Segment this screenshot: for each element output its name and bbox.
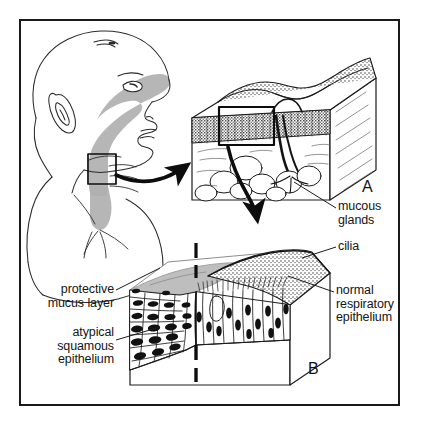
panel-letter-b: B bbox=[308, 360, 319, 378]
panel-a-tissue-block bbox=[192, 58, 376, 201]
arrow-head-to-panel-a bbox=[116, 166, 186, 181]
trachea-shading bbox=[90, 186, 112, 230]
eye-outline bbox=[123, 81, 142, 92]
label-atypical-squamous-epithelium: atypical squamous epithelium bbox=[0, 326, 114, 367]
airway-shading bbox=[89, 74, 170, 196]
label-normal-respiratory-epithelium: normal respiratory epithelium bbox=[336, 284, 394, 325]
lower-lip bbox=[140, 137, 154, 139]
nostril bbox=[146, 117, 153, 119]
shoulder-right bbox=[126, 199, 163, 266]
neck-front bbox=[72, 170, 84, 193]
label-cilia: cilia bbox=[338, 240, 359, 254]
shoulder-left bbox=[27, 177, 52, 262]
figure-root: mucous glands cilia normal respiratory e… bbox=[0, 0, 423, 426]
neck-back bbox=[34, 118, 52, 177]
ear-inner-2 bbox=[60, 110, 65, 120]
hair-tuft bbox=[109, 42, 116, 45]
panel-b-epithelium-block bbox=[130, 243, 330, 385]
panel-b-junction-line bbox=[195, 292, 196, 345]
infant-head-illustration bbox=[27, 31, 170, 303]
panel-letter-a: A bbox=[362, 178, 373, 196]
label-mucous-glands: mucous glands bbox=[338, 200, 381, 227]
eyebrow bbox=[118, 73, 143, 76]
label-protective-mucus-layer: protective mucus layer bbox=[0, 283, 114, 310]
